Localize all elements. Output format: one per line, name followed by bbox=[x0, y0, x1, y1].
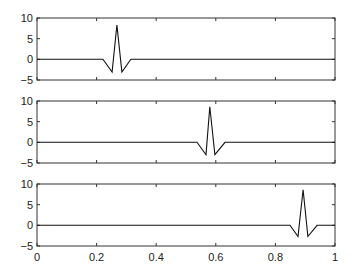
y-tick-label: −5 bbox=[20, 74, 33, 86]
y-tick-label: −5 bbox=[20, 240, 33, 252]
signal-line bbox=[37, 190, 335, 237]
y-tick-label: 5 bbox=[27, 199, 33, 211]
y-tick-label: −5 bbox=[20, 157, 33, 169]
y-tick-label: 10 bbox=[21, 12, 33, 24]
y-tick-label: 5 bbox=[27, 33, 33, 45]
figure: −50510−50510−5051000.20.40.60.81 bbox=[0, 0, 354, 274]
subplot-2: −50510 bbox=[20, 95, 335, 169]
x-tick-label: 0.6 bbox=[208, 251, 223, 263]
subplot-1: −50510 bbox=[20, 12, 335, 86]
axes-box bbox=[37, 184, 335, 246]
y-tick-label: 10 bbox=[21, 178, 33, 190]
x-tick-label: 1 bbox=[332, 251, 338, 263]
y-tick-label: 0 bbox=[27, 53, 33, 65]
x-tick-label: 0.4 bbox=[149, 251, 164, 263]
axes-box bbox=[37, 101, 335, 163]
y-tick-label: 0 bbox=[27, 219, 33, 231]
y-tick-label: 5 bbox=[27, 116, 33, 128]
y-tick-label: 0 bbox=[27, 136, 33, 148]
signal-line bbox=[37, 25, 335, 72]
signal-line bbox=[37, 107, 335, 155]
x-tick-label: 0.2 bbox=[89, 251, 104, 263]
y-tick-label: 10 bbox=[21, 95, 33, 107]
x-tick-label: 0 bbox=[34, 251, 40, 263]
axes-box bbox=[37, 18, 335, 80]
x-tick-label: 0.8 bbox=[268, 251, 283, 263]
subplot-3: −5051000.20.40.60.81 bbox=[20, 178, 338, 263]
